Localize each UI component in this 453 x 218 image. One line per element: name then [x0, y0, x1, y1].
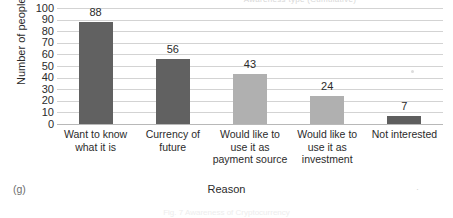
y-axis-tick-label: 80	[42, 26, 54, 37]
y-axis-tick-label: 20	[42, 95, 54, 106]
bar-slot: 43	[211, 8, 288, 124]
bar-slot: 56	[134, 8, 211, 124]
x-axis-title: Reason	[0, 183, 453, 195]
x-axis-category-label: Would like to use it as investment	[289, 128, 366, 166]
clipped-figure-caption: Fig. 7 Awareness of Cryptocurrency	[0, 208, 453, 217]
bar[interactable]	[310, 96, 344, 124]
stray-speck-artifact	[411, 70, 414, 73]
x-axis-category-label: Not interested	[366, 128, 443, 141]
y-axis-tick-label: 30	[42, 84, 54, 95]
y-axis-tick-label: 10	[42, 107, 54, 118]
y-axis-tick-label: 70	[42, 37, 54, 48]
x-axis-category-label: Would like to use it as payment source	[211, 128, 288, 166]
bar[interactable]	[233, 74, 267, 124]
bar-value-label: 56	[167, 44, 179, 55]
x-axis-category-labels: Want to know what it isCurrency of futur…	[57, 128, 443, 176]
y-axis-tick-labels: 1009080706050403020100	[28, 0, 54, 132]
stray-mark-artifact: ·	[416, 185, 419, 194]
figure-container: Awareness type (Cumulative) Number of pe…	[0, 0, 453, 218]
bar[interactable]	[387, 116, 421, 124]
y-axis-tick-label: 60	[42, 49, 54, 60]
y-axis-tick-label: 90	[42, 14, 54, 25]
y-axis-tick-label: 40	[42, 72, 54, 83]
y-axis-title: Number of people (Cumulative)	[14, 0, 28, 85]
y-axis-tick-label: 0	[48, 119, 54, 130]
bar-value-label: 43	[244, 59, 256, 70]
axis-baseline	[57, 124, 443, 125]
bar-series: 885643247	[57, 8, 443, 124]
clipped-chart-title: Awareness type (Cumulative)	[150, 0, 450, 4]
plot-area: 885643247	[57, 8, 443, 124]
bar-value-label: 24	[321, 81, 333, 92]
bar[interactable]	[79, 22, 113, 124]
bar-slot: 24	[289, 8, 366, 124]
bar-value-label: 7	[401, 101, 407, 112]
x-axis-category-label: Want to know what it is	[57, 128, 134, 153]
bar-slot: 88	[57, 8, 134, 124]
bar[interactable]	[156, 59, 190, 124]
bar-slot: 7	[366, 8, 443, 124]
y-axis-tick-label: 100	[36, 3, 54, 14]
bar-value-label: 88	[89, 7, 101, 18]
y-axis-tick-label: 50	[42, 61, 54, 72]
x-axis-category-label: Currency of future	[134, 128, 211, 153]
